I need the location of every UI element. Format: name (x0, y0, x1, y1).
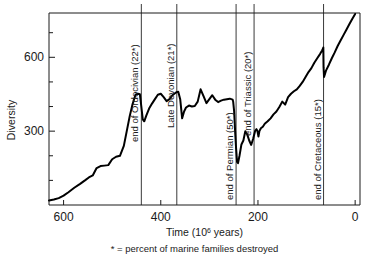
chart-canvas: 300600 6004002000 end of Ordocivian (22*… (0, 0, 377, 259)
x-tick-label: 0 (352, 210, 359, 224)
y-axis-title: Diversity (5, 99, 17, 140)
event-label-triassic: end of Triassic (20*) (242, 52, 253, 136)
event-label-cretaceous: end of Cretaceous (15*) (312, 99, 323, 200)
event-label-permian: end of Permian (50*) (224, 112, 235, 200)
x-tick-label: 600 (54, 210, 74, 224)
event-label-devonian: Late Devonian (21*) (165, 43, 176, 128)
event-label-ordovician: end of Ordocivian (22*) (129, 44, 140, 142)
x-axis-title: Time (106 years) (166, 226, 243, 238)
x-tick-label: 200 (248, 210, 268, 224)
x-tick-label: 400 (151, 210, 171, 224)
y-tick-label: 300 (24, 124, 44, 138)
y-tick-label: 600 (24, 50, 44, 64)
chart-footnote: * = percent of marine families destroyed (111, 243, 279, 254)
diversity-through-time-chart: 300600 6004002000 end of Ordocivian (22*… (0, 0, 377, 259)
